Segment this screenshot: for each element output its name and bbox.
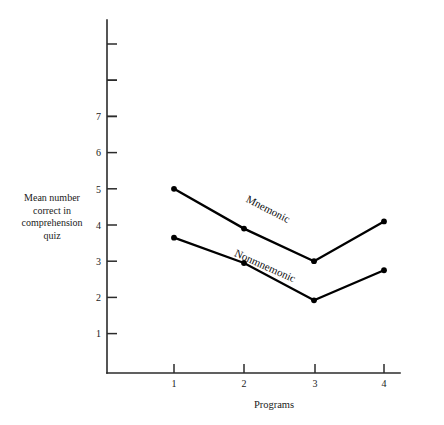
data-point bbox=[311, 297, 317, 303]
x-tick-label-3: 3 bbox=[313, 378, 318, 389]
data-point bbox=[381, 218, 387, 224]
data-point bbox=[241, 226, 247, 232]
y-tick-label-1: 1 bbox=[96, 328, 101, 339]
data-point bbox=[311, 258, 317, 264]
y-tick-label-2: 2 bbox=[96, 292, 101, 303]
y-tick-label-6: 6 bbox=[96, 147, 101, 158]
data-point bbox=[171, 235, 177, 241]
y-tick-label-3: 3 bbox=[96, 256, 101, 267]
series-markers-mnemonic bbox=[171, 186, 387, 264]
series-line-mnemonic bbox=[174, 189, 384, 261]
chart-figure: Mean number correct in comprehension qui… bbox=[0, 0, 444, 425]
x-axis-title: Programs bbox=[254, 399, 294, 410]
x-tick-label-4: 4 bbox=[382, 378, 387, 389]
data-point bbox=[381, 267, 387, 273]
series-label-mnemonic: Mnemonic bbox=[244, 192, 292, 225]
line-chart-plot: 7 6 5 4 3 2 1 1 2 3 4 Programs Mnemonic … bbox=[0, 0, 444, 425]
data-point bbox=[171, 186, 177, 192]
y-tick-label-5: 5 bbox=[96, 184, 101, 195]
y-tick-label-4: 4 bbox=[96, 220, 101, 231]
x-tick-label-2: 2 bbox=[242, 378, 247, 389]
y-tick-label-7: 7 bbox=[96, 111, 101, 122]
x-tick-label-1: 1 bbox=[172, 378, 177, 389]
